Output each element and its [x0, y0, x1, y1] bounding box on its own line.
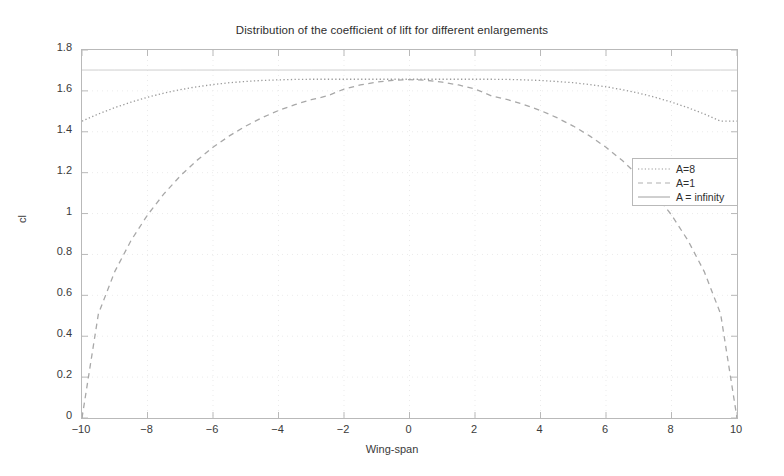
y-tick-label: 1.6 [0, 82, 72, 94]
chart-title: Distribution of the coefficient of lift … [0, 24, 784, 36]
y-tick-label: 0.6 [0, 286, 72, 298]
legend-item-1[interactable]: A=1 [637, 176, 695, 190]
legend-label-1: A=1 [676, 177, 695, 189]
x-tick-label: −4 [258, 423, 298, 435]
plot-area [81, 49, 738, 419]
x-tick-label: −8 [127, 423, 167, 435]
x-tick-label: 10 [716, 423, 756, 435]
legend-sample-solid-icon [637, 192, 671, 202]
legend-item-2[interactable]: A = infinity [637, 190, 724, 204]
legend-sample-dotted-icon [637, 164, 671, 174]
legend-box[interactable]: A=8 A=1 A = infinity [632, 158, 738, 206]
legend-label-2: A = infinity [676, 191, 724, 203]
x-axis-label: Wing-span [0, 443, 784, 455]
y-tick-label: 0.2 [0, 368, 72, 380]
plot-svg [82, 50, 737, 418]
x-tick-label: −6 [192, 423, 232, 435]
y-axis-label: cl [16, 189, 28, 249]
legend-item-0[interactable]: A=8 [637, 162, 695, 176]
x-tick-label: 2 [454, 423, 494, 435]
legend-sample-dashed-icon [637, 178, 671, 188]
y-tick-label: 0 [0, 409, 72, 421]
x-tick-label: −2 [323, 423, 363, 435]
y-tick-label: 1.2 [0, 164, 72, 176]
y-tick-label: 0.8 [0, 245, 72, 257]
figure-canvas: Distribution of the coefficient of lift … [0, 0, 784, 476]
x-tick-label: 6 [585, 423, 625, 435]
x-tick-label: −10 [61, 423, 101, 435]
x-tick-label: 8 [651, 423, 691, 435]
y-tick-label: 1.4 [0, 123, 72, 135]
y-tick-label: 0.4 [0, 327, 72, 339]
legend-label-0: A=8 [676, 163, 695, 175]
x-tick-label: 0 [389, 423, 429, 435]
y-tick-label: 1.8 [0, 41, 72, 53]
gridlines [82, 50, 737, 418]
x-tick-label: 4 [520, 423, 560, 435]
y-tick-label: 1 [0, 205, 72, 217]
